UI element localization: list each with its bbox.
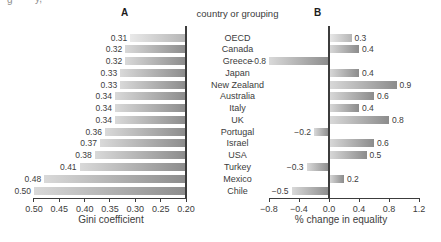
country-label: Japan (192, 68, 283, 78)
change-value-label: 0.5 (370, 151, 382, 159)
axis-tick (329, 198, 330, 202)
axis-tick (135, 198, 136, 202)
change-value-label: −0.8 (249, 57, 266, 65)
change-bar (329, 45, 359, 53)
zero-line (328, 26, 329, 198)
gini-baseline-axis (185, 26, 186, 198)
axis-tick-label: 0.50 (25, 204, 43, 214)
country-label: Turkey (192, 162, 283, 172)
change-value-label: 0.6 (377, 92, 389, 100)
gini-axis-title: Gini coefficient (78, 214, 143, 225)
axis-tick (269, 198, 270, 202)
gini-bar (115, 104, 186, 112)
gini-bar (95, 151, 186, 159)
gini-value-label: 0.34 (96, 92, 113, 100)
country-label: Canada (192, 44, 283, 54)
change-value-label: −0.5 (272, 187, 289, 195)
gini-bar (115, 116, 186, 124)
change-bar (329, 34, 352, 42)
panel-b-label: B (314, 7, 321, 18)
cropped-text-fragment: g (7, 0, 13, 5)
axis-tick (59, 198, 60, 202)
country-label: Chile (192, 186, 283, 196)
country-label: Mexico (192, 174, 283, 184)
gini-bar (130, 34, 186, 42)
gini-bar (120, 81, 186, 89)
panel-a-label: A (121, 7, 128, 18)
axis-tick (109, 198, 110, 202)
gini-value-label: 0.31 (111, 34, 128, 42)
change-bar (329, 104, 359, 112)
gini-value-label: 0.34 (96, 116, 113, 124)
axis-tick-label: −0.8 (260, 204, 278, 214)
gini-bar (125, 57, 186, 65)
axis-tick (299, 198, 300, 202)
gini-bar (100, 139, 186, 147)
gini-bar (105, 128, 186, 136)
two-panel-bar-figure: g y, A country or grouping B 0.31OECD0.3… (0, 0, 441, 242)
change-value-label: 0.4 (362, 69, 374, 77)
change-value-label: 0.4 (362, 104, 374, 112)
gini-value-label: 0.34 (96, 104, 113, 112)
cropped-text-fragment: y, (35, 0, 42, 4)
change-bar (329, 69, 359, 77)
gini-value-label: 0.50 (14, 187, 31, 195)
axis-tick-label: 0.30 (127, 204, 145, 214)
gini-value-label: 0.38 (75, 151, 92, 159)
change-x-axis (269, 198, 419, 199)
axis-tick-label: 0.8 (383, 204, 396, 214)
gini-bar (44, 175, 186, 183)
axis-tick-label: 0.45 (51, 204, 69, 214)
country-label: USA (192, 150, 283, 160)
gini-value-label: 0.32 (106, 57, 123, 65)
country-label: Italy (192, 103, 283, 113)
change-value-label: 0.9 (400, 81, 412, 89)
gini-bar (34, 187, 186, 195)
country-label: Israel (192, 138, 283, 148)
gini-bar (115, 92, 186, 100)
change-bar (329, 92, 374, 100)
gini-bar (120, 69, 186, 77)
gini-value-label: 0.33 (101, 81, 118, 89)
gini-value-label: 0.36 (85, 128, 102, 136)
axis-tick (359, 198, 360, 202)
change-bar (329, 175, 344, 183)
change-value-label: 0.3 (355, 34, 367, 42)
change-bar (329, 81, 397, 89)
axis-tick (160, 198, 161, 202)
axis-tick (389, 198, 390, 202)
country-label: New Zealand (192, 80, 283, 90)
change-bar (292, 187, 330, 195)
axis-tick-label: 0.40 (76, 204, 94, 214)
axis-tick-label: −0.4 (290, 204, 308, 214)
axis-tick-label: 0.35 (101, 204, 119, 214)
change-value-label: 0.4 (362, 45, 374, 53)
gini-bar (80, 163, 186, 171)
change-bar (314, 128, 329, 136)
axis-tick-label: 1.2 (413, 204, 426, 214)
country-label: Portugal (192, 127, 283, 137)
country-label: Australia (192, 91, 283, 101)
change-bar (329, 151, 367, 159)
axis-tick-label: 0.0 (323, 204, 336, 214)
gini-bar (125, 45, 186, 53)
gini-value-label: 0.37 (80, 139, 97, 147)
axis-tick (84, 198, 85, 202)
axis-tick-label: 0.20 (177, 204, 195, 214)
change-value-label: −0.2 (294, 128, 311, 136)
axis-tick (186, 198, 187, 202)
change-value-label: 0.6 (377, 139, 389, 147)
change-bar (269, 57, 329, 65)
change-axis-title: % change in equality (295, 214, 387, 225)
axis-tick-label: 0.4 (353, 204, 366, 214)
axis-tick (419, 198, 420, 202)
change-value-label: 0.8 (392, 116, 404, 124)
gini-value-label: 0.33 (101, 69, 118, 77)
change-value-label: 0.2 (347, 175, 359, 183)
gini-value-label: 0.48 (25, 175, 42, 183)
change-value-label: −0.3 (287, 163, 304, 171)
country-label: OECD (192, 33, 283, 43)
change-bar (329, 116, 389, 124)
change-bar (307, 163, 330, 171)
axis-tick (33, 198, 34, 202)
